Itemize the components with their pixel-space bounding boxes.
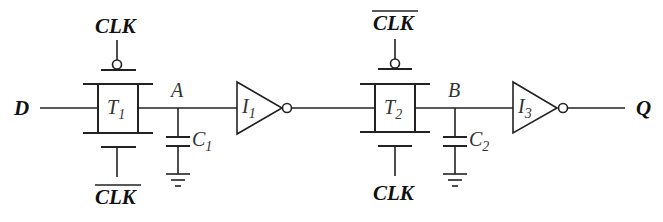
t1-top-gate-label: CLK: [95, 14, 138, 38]
input-label-d: D: [13, 96, 29, 120]
i1-inversion-bubble-icon: [283, 104, 292, 113]
c2-label: C2: [469, 128, 489, 154]
t2-inversion-bubble-icon: [391, 59, 400, 68]
capacitor-c2: C2: [443, 108, 489, 186]
i3-inversion-bubble-icon: [559, 104, 568, 113]
transmission-gate-t1: T1 CLK CLK: [83, 14, 153, 209]
capacitor-c1: C1: [166, 108, 212, 186]
i1-label: I1: [241, 95, 256, 121]
t2-label: T2: [384, 96, 402, 122]
ground-icon: [166, 174, 190, 186]
output-label-q: Q: [636, 96, 651, 120]
inverter-i3: I3: [513, 82, 568, 133]
inverter-i1: I1: [237, 82, 292, 134]
c1-label: C1: [192, 128, 212, 154]
t2-top-gate-label: CLK: [373, 11, 416, 35]
node-label-a: A: [169, 79, 184, 101]
t1-inversion-bubble-icon: [113, 60, 122, 69]
t2-bottom-gate-label: CLK: [373, 181, 416, 205]
node-label-b: B: [448, 79, 460, 101]
t1-bottom-gate-label: CLK: [95, 185, 138, 209]
i3-label: I3: [517, 95, 532, 121]
ground-icon: [443, 174, 467, 186]
t1-label: T1: [107, 96, 125, 122]
circuit-diagram: D T1 CLK CLK A C1 I1: [0, 0, 663, 222]
